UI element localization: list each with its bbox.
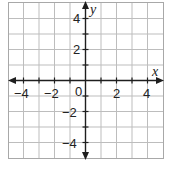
y-tick-label: −4 [62,136,77,151]
x-tick-label: −4 [14,86,29,101]
y-tick-label: 4 [73,11,80,26]
x-axis-left-arrow-icon [8,77,16,84]
y-axis-label: y [88,2,97,17]
origin-label: 0 [75,84,82,99]
coordinate-plane: −4 −2 2 4 4 2 −2 −4 0 x y [0,0,169,173]
y-tick-label: −2 [62,105,77,120]
y-tick-label: 2 [73,42,80,57]
x-tick-label: 2 [113,86,120,101]
x-tick-label: 4 [143,86,150,101]
x-axis-label: x [151,64,159,79]
x-tick-label: −2 [44,86,59,101]
